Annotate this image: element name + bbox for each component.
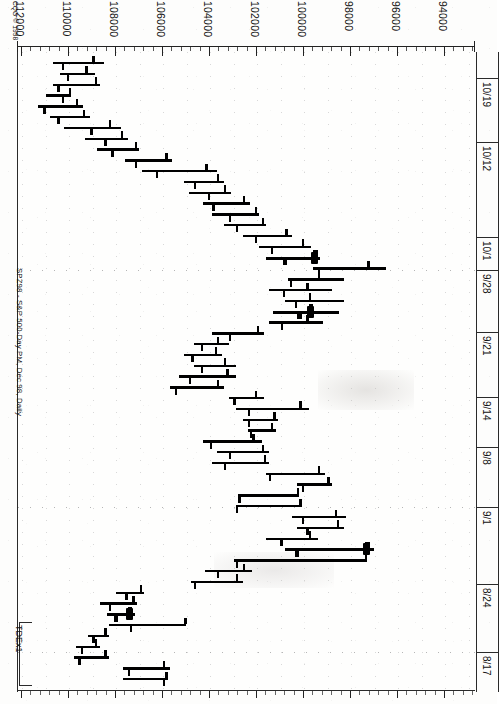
ohlc-range-line [236, 505, 302, 507]
ohlc-open-tick [128, 670, 130, 676]
ohlc-range-line [217, 451, 269, 453]
price-axis-minor-tick [247, 47, 248, 51]
ohlc-close-tick [299, 499, 301, 505]
bottom-axis-minor-tick [284, 691, 285, 695]
ohlc-range-line [97, 148, 139, 150]
bottom-axis-minor-tick [378, 691, 379, 695]
date-axis-label: 9/14 [481, 401, 492, 420]
bottom-axis-minor-tick [265, 691, 266, 695]
ohlc-open-tick [111, 151, 113, 157]
price-axis-minor-tick [369, 47, 370, 51]
ohlc-open-tick [114, 616, 119, 622]
date-axis-label: 9/8 [481, 451, 492, 465]
ohlc-open-tick [78, 659, 80, 665]
date-axis-cell: 9/1 [477, 507, 498, 585]
price-tick-label: 98000 [343, 1, 355, 31]
ohlc-open-tick [269, 475, 271, 481]
ohlc-close-tick [309, 293, 311, 299]
grid-line-vertical [328, 52, 329, 692]
ohlc-close-tick [262, 445, 264, 451]
date-axis-label: 9/1 [481, 511, 492, 525]
price-axis-minor-tick [143, 47, 144, 51]
ohlc-open-tick [283, 259, 288, 265]
price-tick-label: 94000 [437, 1, 449, 31]
bottom-axis-minor-tick [275, 691, 276, 695]
bottom-axis-major-tick [21, 691, 22, 698]
ohlc-open-tick [233, 399, 235, 405]
ohlc-open-tick [210, 443, 212, 449]
ohlc-close-tick [95, 639, 97, 645]
bottom-axis-minor-tick [30, 691, 31, 695]
ohlc-close-tick [83, 110, 85, 116]
price-axis-minor-tick [388, 47, 389, 51]
price-axis-minor-tick [30, 47, 31, 51]
ohlc-range-line [170, 386, 224, 388]
price-axis-minor-tick [218, 47, 219, 51]
date-axis-cell: 9/8 [477, 447, 498, 508]
ohlc-range-line [109, 624, 187, 626]
ohlc-open-tick [67, 75, 69, 81]
plot-area [17, 52, 476, 692]
ohlc-range-line [297, 527, 344, 529]
ohlc-close-tick [109, 120, 111, 126]
ohlc-open-tick [229, 453, 231, 459]
date-axis-cell: 8/17 [477, 652, 498, 693]
bottom-axis-minor-tick [406, 691, 407, 695]
ohlc-open-tick [135, 162, 137, 168]
bottom-axis-major-tick [350, 691, 351, 698]
ohlc-open-tick [236, 562, 238, 568]
ohlc-open-tick [248, 421, 250, 427]
price-axis-minor-tick [359, 47, 360, 51]
date-axis-label: 9/21 [481, 336, 492, 355]
ohlc-open-tick [283, 291, 285, 297]
grid-line-vertical [210, 52, 211, 692]
grid-line-vertical [46, 52, 47, 692]
ohlc-close-tick [262, 218, 264, 224]
ohlc-close-tick [165, 153, 167, 159]
ohlc-range-line [116, 592, 144, 594]
price-axis: CQG © 1998 11200011000010800010600010400… [0, 0, 497, 44]
ohlc-range-line [53, 62, 105, 64]
ohlc-close-tick [69, 88, 71, 94]
ohlc-open-tick [62, 97, 64, 103]
ohlc-open-tick [81, 648, 83, 654]
ohlc-range-line [212, 213, 259, 215]
ohlc-open-tick [189, 378, 191, 384]
ohlc-close-tick [104, 628, 106, 634]
ohlc-range-line [269, 289, 332, 291]
ohlc-close-tick [257, 326, 259, 332]
bottom-axis-major-tick [68, 691, 69, 698]
date-axis-cell: 9/28 [477, 270, 498, 333]
ohlc-range-line [288, 278, 344, 280]
ohlc-open-tick [281, 324, 283, 330]
price-axis-minor-tick [181, 47, 182, 51]
bottom-axis-minor-tick [359, 691, 360, 695]
ohlc-close-tick [215, 347, 217, 353]
ohlc-open-tick [297, 313, 302, 319]
price-axis-minor-tick [331, 47, 332, 51]
date-axis-cell: 9/14 [477, 397, 498, 448]
ohlc-range-line [123, 678, 168, 680]
bottom-axis-major-tick [115, 691, 116, 698]
price-axis-major-tick [444, 47, 445, 56]
price-tick-label: 108000 [108, 1, 120, 37]
bottom-axis-minor-tick [49, 691, 50, 695]
price-axis-major-tick [256, 47, 257, 56]
ohlc-open-tick [302, 486, 304, 492]
bottom-axis-minor-tick [87, 691, 88, 695]
price-axis-minor-tick [435, 47, 436, 51]
ohlc-range-line [266, 473, 325, 475]
ohlc-open-tick [295, 551, 300, 557]
ohlc-range-line [292, 516, 346, 518]
ohlc-close-tick [318, 272, 320, 278]
bottom-axis-minor-tick [472, 691, 473, 695]
price-axis-major-tick [162, 47, 163, 56]
date-axis-cell: 10/12 [477, 142, 498, 238]
study-label: TDEx1 [14, 625, 24, 653]
ohlc-open-tick [280, 540, 282, 546]
ohlc-close-tick [85, 66, 87, 72]
bottom-axis-minor-tick [106, 691, 107, 695]
date-axis-cell: 9/21 [477, 332, 498, 398]
ohlc-range-line [184, 181, 224, 183]
ohlc-close-tick [205, 164, 207, 170]
